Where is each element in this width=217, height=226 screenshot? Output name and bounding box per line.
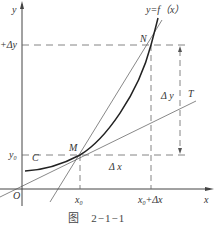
tangent-line xyxy=(0,101,196,197)
point-m-label: M xyxy=(69,143,77,153)
y0-plus-dy-label: +Δy xyxy=(0,40,17,50)
caption-prefix: 图 xyxy=(68,212,80,224)
point-c-label: C xyxy=(32,153,39,163)
x-axis-label: x xyxy=(204,195,208,205)
origin-label: O xyxy=(13,191,20,201)
x0-label: x0 xyxy=(75,195,82,206)
delta-x-label: Δ x xyxy=(109,162,122,172)
curve-label: y=f（x） xyxy=(146,5,184,15)
curve xyxy=(25,18,158,171)
y-axis-arrow-icon xyxy=(20,1,24,9)
secant-line xyxy=(50,20,162,202)
caption-number: 2−1−1 xyxy=(91,212,125,224)
point-n-label: N xyxy=(140,34,147,44)
y0-label: y0 xyxy=(9,150,16,161)
figure-caption: 图 2−1−1 xyxy=(68,209,125,225)
delta-y-arrow-top-icon xyxy=(178,46,182,52)
x-axis-arrow-icon xyxy=(205,187,214,191)
tangent-label: T xyxy=(188,89,194,99)
derivative-diagram xyxy=(0,0,217,226)
delta-y-label: Δ y xyxy=(161,91,174,101)
x0-plus-dx-label: x0+Δx xyxy=(138,195,163,206)
y-axis-label: y xyxy=(12,5,16,15)
delta-y-arrow-bottom-icon xyxy=(178,148,182,154)
